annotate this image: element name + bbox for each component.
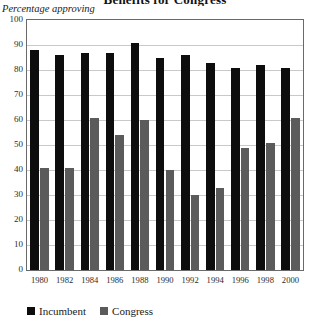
bar-incumbent [206,63,215,271]
bar-incumbent [81,53,90,271]
bar-congress [266,143,275,271]
bar-incumbent [181,55,190,270]
bar-incumbent [281,68,290,271]
bars-layer [27,20,303,270]
bar-incumbent [231,68,240,271]
y-axis-tick: 0 [0,265,23,274]
bar-incumbent [55,55,64,270]
x-axis-tick: 2000 [275,275,305,285]
bar-congress [40,168,49,271]
bar-incumbent [256,65,265,270]
bar-congress [241,148,250,271]
y-axis-tick: 60 [0,115,23,124]
bar-incumbent [156,58,165,271]
bar-congress [90,118,99,271]
plot-area [26,19,304,271]
legend-item: Congress [100,305,153,317]
y-axis-tick: 80 [0,65,23,74]
y-axis-tick: 70 [0,90,23,99]
y-axis-tick: 10 [0,240,23,249]
legend-label: Congress [112,305,153,317]
y-axis-tick: 40 [0,165,23,174]
legend-item: Incumbent [27,305,86,317]
bar-congress [216,188,225,271]
chart-legend: IncumbentCongress [27,305,153,317]
legend-swatch-incumbent [27,307,35,315]
bar-congress [65,168,74,271]
bar-congress [291,118,300,271]
bar-incumbent [30,50,39,270]
bar-incumbent [106,53,115,271]
bar-congress [115,135,124,270]
y-axis-tick: 20 [0,215,23,224]
y-axis-tick: 30 [0,190,23,199]
bar-congress [140,120,149,270]
legend-swatch-congress [100,307,108,315]
y-axis-tick: 100 [0,15,23,24]
legend-label: Incumbent [39,305,86,317]
y-axis-tick: 90 [0,40,23,49]
bar-congress [191,195,200,270]
bar-congress [166,170,175,270]
y-axis-tick: 50 [0,140,23,149]
bar-chart-figure: Benefits for Congress Percentage approvi… [0,0,330,329]
bar-incumbent [131,43,140,271]
y-axis-label: Percentage approving [2,3,95,14]
